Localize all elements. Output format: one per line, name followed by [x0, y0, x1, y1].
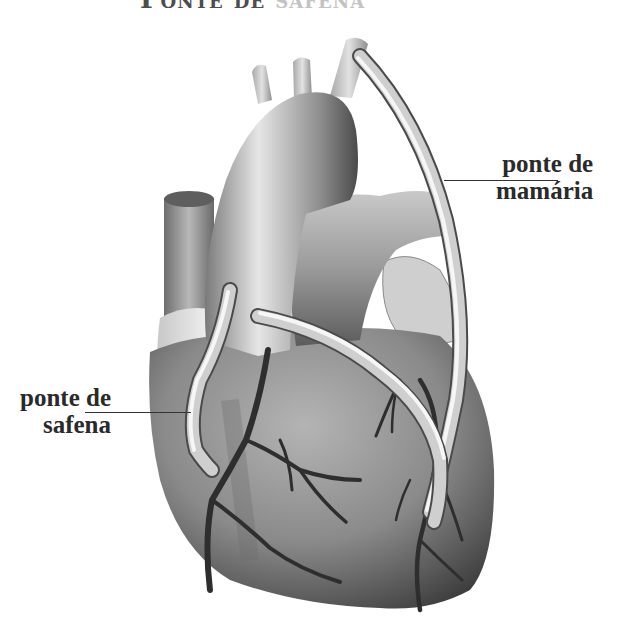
- label-safena-line2: safena: [20, 411, 111, 438]
- label-ponte-de-mamaria: ponte de mamária: [496, 150, 593, 204]
- heart-illustration: [0, 0, 627, 633]
- label-ponte-de-safena: ponte de safena: [20, 384, 111, 438]
- label-mamaria-line1: ponte de: [496, 150, 593, 177]
- label-mamaria-line2: mamária: [496, 177, 593, 204]
- label-safena-line1: ponte de: [20, 384, 111, 411]
